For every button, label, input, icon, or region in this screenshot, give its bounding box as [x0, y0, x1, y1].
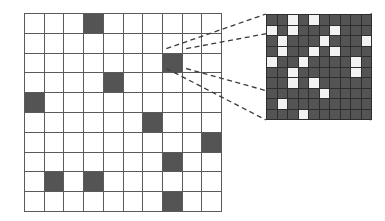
coarse-cell-r8-c8 [183, 172, 203, 192]
magnified-cell-r4-c6 [330, 57, 341, 68]
coarse-cell-r6-c6 [143, 133, 163, 153]
magnified-cell-r6-c2 [288, 78, 299, 89]
magnified-cell-r5-c0 [267, 68, 278, 79]
coarse-cell-r0-c4 [104, 14, 124, 34]
coarse-cell-r0-c3 [84, 14, 104, 34]
magnified-cell-r0-c7 [341, 15, 352, 26]
coarse-cell-r2-c5 [124, 54, 144, 74]
magnified-cell-r6-c1 [278, 78, 289, 89]
magnified-cell-r8-c1 [278, 99, 289, 110]
magnified-cell-r8-c6 [330, 99, 341, 110]
magnified-cell-r0-c1 [278, 15, 289, 26]
coarse-cell-r5-c9 [202, 113, 222, 133]
magnified-cell-r7-c5 [320, 89, 331, 100]
magnified-cell-r0-c8 [351, 15, 362, 26]
magnified-cell-r3-c7 [341, 47, 352, 58]
coarse-cell-r1-c7 [163, 34, 183, 54]
magnified-cell-r8-c2 [288, 99, 299, 110]
magnified-cell-r9-c1 [278, 110, 289, 121]
magnified-cell-r1-c8 [351, 26, 362, 37]
magnified-cell-r6-c3 [299, 78, 310, 89]
coarse-cell-r8-c5 [124, 172, 144, 192]
coarse-cell-r8-c6 [143, 172, 163, 192]
magnified-cell-r1-c4 [309, 26, 320, 37]
magnified-cell-r9-c4 [309, 110, 320, 121]
magnified-cell-r5-c8 [351, 68, 362, 79]
magnified-cell-r0-c9 [362, 15, 373, 26]
coarse-cell-r9-c8 [183, 192, 203, 212]
magnified-cell-r4-c7 [341, 57, 352, 68]
magnified-cell-r3-c9 [362, 47, 373, 58]
coarse-cell-r7-c3 [84, 153, 104, 173]
coarse-cell-r4-c8 [183, 93, 203, 113]
coarse-cell-r4-c2 [64, 93, 84, 113]
coarse-cell-r4-c7 [163, 93, 183, 113]
magnified-cell-r1-c1 [278, 26, 289, 37]
magnified-cell-r1-c9 [362, 26, 373, 37]
coarse-cell-r1-c0 [25, 34, 45, 54]
coarse-cell-r6-c1 [45, 133, 65, 153]
coarse-cell-r6-c5 [124, 133, 144, 153]
magnified-cell-r3-c8 [351, 47, 362, 58]
magnified-cell-r5-c6 [330, 68, 341, 79]
magnified-cell-r4-c2 [288, 57, 299, 68]
magnified-cell-r3-c5 [320, 47, 331, 58]
coarse-cell-r5-c0 [25, 113, 45, 133]
magnified-cell-r8-c4 [309, 99, 320, 110]
coarse-cell-r0-c5 [124, 14, 144, 34]
magnified-cell-r2-c9 [362, 36, 373, 47]
coarse-cell-r6-c0 [25, 133, 45, 153]
coarse-cell-r6-c8 [183, 133, 203, 153]
magnified-cell-r9-c7 [341, 110, 352, 121]
magnified-cell-r9-c5 [320, 110, 331, 121]
coarse-cell-r2-c0 [25, 54, 45, 74]
coarse-cell-r3-c1 [45, 73, 65, 93]
magnified-cell-r2-c1 [278, 36, 289, 47]
magnified-cell-r9-c9 [362, 110, 373, 121]
coarse-cell-r2-c1 [45, 54, 65, 74]
coarse-cell-r9-c3 [84, 192, 104, 212]
coarse-cell-r6-c2 [64, 133, 84, 153]
magnified-cell-r0-c5 [320, 15, 331, 26]
coarse-cell-r0-c0 [25, 14, 45, 34]
magnified-cell-r4-c8 [351, 57, 362, 68]
magnified-cell-r2-c8 [351, 36, 362, 47]
coarse-cell-r1-c9 [202, 34, 222, 54]
magnified-cell-r7-c3 [299, 89, 310, 100]
magnified-cell-r2-c5 [320, 36, 331, 47]
coarse-cell-r8-c2 [64, 172, 84, 192]
coarse-cell-r4-c4 [104, 93, 124, 113]
coarse-cell-r1-c6 [143, 34, 163, 54]
magnified-cell-r5-c1 [278, 68, 289, 79]
magnified-cell-r0-c4 [309, 15, 320, 26]
coarse-cell-r3-c6 [143, 73, 163, 93]
magnified-cell-r5-c3 [299, 68, 310, 79]
coarse-cell-r9-c7 [163, 192, 183, 212]
coarse-cell-r1-c3 [84, 34, 104, 54]
magnified-cell-r7-c2 [288, 89, 299, 100]
coarse-cell-r8-c0 [25, 172, 45, 192]
magnified-cell-r9-c6 [330, 110, 341, 121]
coarse-cell-r2-c4 [104, 54, 124, 74]
coarse-cell-r3-c3 [84, 73, 104, 93]
magnified-cell-r1-c0 [267, 26, 278, 37]
coarse-cell-r8-c9 [202, 172, 222, 192]
magnified-cell-r0-c2 [288, 15, 299, 26]
coarse-cell-r7-c9 [202, 153, 222, 173]
magnified-cell-r6-c0 [267, 78, 278, 89]
coarse-cell-r7-c6 [143, 153, 163, 173]
magnified-cell-r8-c0 [267, 99, 278, 110]
magnified-cell-r2-c7 [341, 36, 352, 47]
magnified-cell-r1-c5 [320, 26, 331, 37]
coarse-cell-r5-c7 [163, 113, 183, 133]
coarse-cell-r3-c9 [202, 73, 222, 93]
magnified-cell-r0-c3 [299, 15, 310, 26]
coarse-cell-r7-c2 [64, 153, 84, 173]
coarse-cell-r0-c1 [45, 14, 65, 34]
magnified-cell-r6-c8 [351, 78, 362, 89]
magnified-cell-r3-c3 [299, 47, 310, 58]
magnified-cell-r8-c9 [362, 99, 373, 110]
magnified-cell-r5-c2 [288, 68, 299, 79]
coarse-cell-r5-c2 [64, 113, 84, 133]
magnified-grid-figure [0, 0, 385, 221]
